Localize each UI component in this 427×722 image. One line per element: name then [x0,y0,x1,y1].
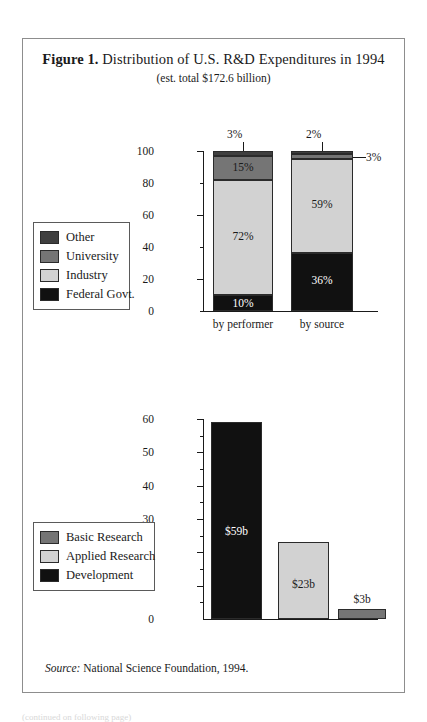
ytick-60 [197,419,203,420]
bar-applied-research[interactable]: $23b [278,542,329,619]
source-note: Source: National Science Foundation, 199… [45,662,248,674]
legend-swatch-development [40,569,59,582]
x-axis-line [203,619,378,620]
ytick-10 [197,586,203,587]
ytick-20 [197,552,203,553]
ytick-40 [197,486,203,487]
ytick-label-50: 50 [124,447,154,459]
segment-label-industry: 72% [213,231,273,243]
figure-title-block: Figure 1. Distribution of U.S. R&D Expen… [23,51,404,84]
source-label: Source: [45,662,80,674]
figure-frame: Figure 1. Distribution of U.S. R&D Expen… [22,38,405,693]
bar-label-development: $59b [212,526,261,538]
stacked-bar-chart: 100 80 60 40 20 0 15% 72% 10% 3% [163,129,378,321]
x-axis-line [203,311,378,312]
ytick-label-100: 100 [124,146,154,158]
ytick-5 [200,602,203,603]
ytick-label-0: 0 [124,614,154,626]
ytick-label-40: 40 [124,481,154,493]
callout-leader-2 [322,142,323,151]
segment-label-federal-govt: 10% [213,298,273,310]
ytick-30 [197,519,203,520]
xtick-label-by-performer: by performer [201,319,285,331]
legend-label-basic-research: Basic Research [66,531,143,544]
legend-swatch-federal-govt [40,288,59,301]
ytick-55 [200,436,203,437]
legend-swatch-other [40,231,59,244]
callout-leader-3 [353,157,366,158]
bar-basic-research[interactable] [338,609,386,619]
callout-leader-1 [243,142,244,151]
ytick-100 [197,151,203,152]
legend-item-applied-research[interactable]: Applied Research [40,547,147,566]
page-bleed-text: (continued on following page) [22,712,131,722]
ytick-15 [200,569,203,570]
ytick-45 [200,469,203,470]
segment-label-industry: 59% [291,199,353,211]
bar-label-applied-research: $23b [279,579,328,591]
ytick-label-80: 80 [124,178,154,190]
legend-item-federal-govt[interactable]: Federal Govt. [40,285,122,304]
legend-research-type: Basic Research Applied Research Developm… [33,522,155,591]
ytick-35 [200,502,203,503]
legend-item-development[interactable]: Development [40,566,147,585]
ytick-80 [197,215,203,216]
legend-label-development: Development [66,569,133,582]
legend-item-basic-research[interactable]: Basic Research [40,528,147,547]
segment-label-university: 15% [213,162,273,174]
legend-item-industry[interactable]: Industry [40,266,122,285]
figure-number: Figure 1. [42,51,98,67]
legend-label-other: Other [66,231,94,244]
legend-performer-source: Other University Industry Federal Govt. [33,222,130,310]
bar-development[interactable]: $59b [211,422,262,619]
legend-swatch-industry [40,269,59,282]
legend-label-university: University [66,250,119,263]
ytick-label-60: 60 [124,414,154,426]
y-axis-line [203,151,204,312]
ytick-90 [200,183,203,184]
ytick-50 [200,311,203,312]
legend-swatch-applied-research [40,550,59,563]
legend-label-industry: Industry [66,269,108,282]
callout-other-by-source: 2% [306,129,321,141]
y-axis-line [203,419,204,620]
source-text: National Science Foundation, 1994. [80,662,248,674]
legend-label-federal-govt: Federal Govt. [66,288,135,301]
ytick-25 [200,536,203,537]
callout-other-by-performer: 3% [227,129,242,141]
legend-swatch-basic-research [40,531,59,544]
figure-title-text: Distribution of U.S. R&D Expenditures in… [99,51,385,67]
bar-label-basic-research: $3b [338,594,386,606]
ytick-50 [197,452,203,453]
ytick-60 [197,279,203,280]
segment-label-federal-govt: 36% [291,275,353,287]
stacked-bar-by-performer[interactable]: 15% 72% 10% [213,151,273,311]
ytick-70 [200,247,203,248]
figure-subtitle: (est. total $172.6 billion) [23,72,404,84]
callout-university-by-source: 3% [366,152,381,164]
bar-chart-rd-type: 60 50 40 30 20 10 0 $59b $23b $3b [163,379,378,629]
stacked-bar-by-source[interactable]: 59% 36% [291,151,353,311]
legend-item-other[interactable]: Other [40,228,122,247]
xtick-label-by-source: by source [283,319,361,331]
legend-item-university[interactable]: University [40,247,122,266]
figure-title: Figure 1. Distribution of U.S. R&D Expen… [23,51,404,68]
legend-swatch-university [40,250,59,263]
ytick-label-60: 60 [124,210,154,222]
legend-label-applied-research: Applied Research [66,550,155,563]
